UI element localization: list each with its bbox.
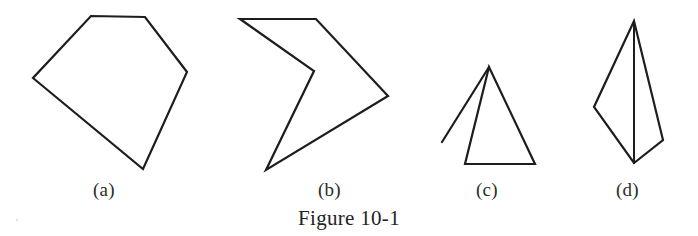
shape-label-c: (c) xyxy=(476,180,498,200)
shape-label-d: (d) xyxy=(616,180,639,200)
shape-label-b: (b) xyxy=(318,180,341,200)
figure-page: (a) (b) (c) (d) Figure 10-1 xyxy=(0,0,698,236)
figure-drawing-canvas xyxy=(0,0,698,236)
shape-label-a: (a) xyxy=(93,180,115,200)
canvas-background xyxy=(0,0,698,236)
scan-artifact-speck xyxy=(16,219,18,221)
figure-caption: Figure 10-1 xyxy=(0,206,698,230)
